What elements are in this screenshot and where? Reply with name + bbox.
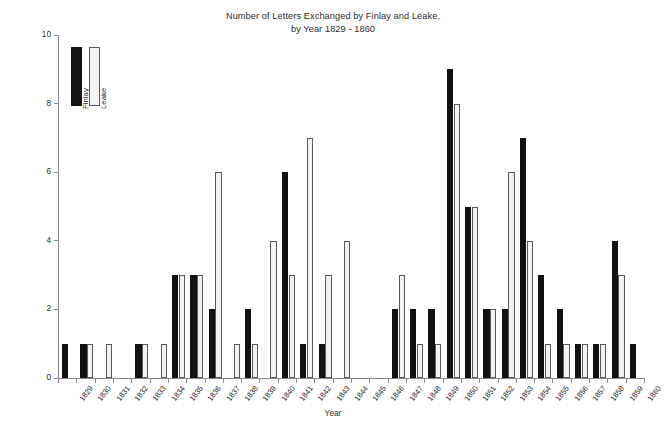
x-tick-label-1836: 1836 xyxy=(206,384,224,403)
bar-leake-1847 xyxy=(399,275,405,378)
x-tick-label-1856: 1856 xyxy=(572,384,590,403)
x-tick-label-1834: 1834 xyxy=(169,384,187,403)
x-tick-mark xyxy=(589,378,590,383)
bar-finlay-1855 xyxy=(538,275,544,378)
bar-finlay-1842 xyxy=(300,344,306,378)
bar-leake-1850 xyxy=(454,104,460,378)
x-tick-label-1833: 1833 xyxy=(151,384,169,403)
x-tick-label-1835: 1835 xyxy=(188,384,206,403)
bar-finlay-1849 xyxy=(428,309,434,378)
x-tick-mark xyxy=(131,378,132,383)
bar-finlay-1850 xyxy=(447,69,453,378)
bar-leake-1848 xyxy=(417,344,423,378)
x-tick-mark xyxy=(351,378,352,383)
x-tick-label-1849: 1849 xyxy=(444,384,462,403)
x-tick-mark xyxy=(388,378,389,383)
x-tick-label-1844: 1844 xyxy=(352,384,370,403)
chart-title-line-2: by Year 1829 - 1860 xyxy=(0,23,666,36)
x-tick-mark xyxy=(76,378,77,383)
bar-finlay-1833 xyxy=(135,344,141,378)
bar-finlay-1860 xyxy=(630,344,636,378)
x-tick-label-1841: 1841 xyxy=(297,384,315,403)
x-tick-mark xyxy=(626,378,627,383)
x-tick-mark xyxy=(278,378,279,383)
x-tick-mark xyxy=(259,378,260,383)
bar-finlay-1830 xyxy=(80,344,86,378)
x-tick-label-1857: 1857 xyxy=(590,384,608,403)
x-tick-label-1839: 1839 xyxy=(261,384,279,403)
x-tick-label-1840: 1840 xyxy=(279,384,297,403)
x-tick-label-1832: 1832 xyxy=(133,384,151,403)
bar-leake-1840 xyxy=(270,241,276,378)
x-tick-label-1847: 1847 xyxy=(407,384,425,403)
x-tick-label-1854: 1854 xyxy=(535,384,553,403)
x-tick-label-1851: 1851 xyxy=(481,384,499,403)
x-tick-label-1830: 1830 xyxy=(96,384,114,403)
letters-bar-chart: Number of Letters Exchanged by Finlay an… xyxy=(0,0,666,435)
bar-leake-1831 xyxy=(106,344,112,378)
bar-finlay-1839 xyxy=(245,309,251,378)
bar-leake-1852 xyxy=(490,309,496,378)
x-tick-mark xyxy=(241,378,242,383)
bar-leake-1857 xyxy=(582,344,588,378)
bar-finlay-1857 xyxy=(575,344,581,378)
x-tick-label-1831: 1831 xyxy=(114,384,132,403)
bar-finlay-1836 xyxy=(190,275,196,378)
y-tick-label: 4 xyxy=(46,235,51,245)
chart-title: Number of Letters Exchanged by Finlay an… xyxy=(0,10,666,35)
bar-leake-1837 xyxy=(215,172,221,378)
bar-finlay-1843 xyxy=(319,344,325,378)
x-tick-label-1829: 1829 xyxy=(78,384,96,403)
x-tick-mark xyxy=(168,378,169,383)
x-tick-mark xyxy=(296,378,297,383)
bar-finlay-1853 xyxy=(502,309,508,378)
x-tick-mark xyxy=(205,378,206,383)
bar-finlay-1835 xyxy=(172,275,178,378)
bar-leake-1834 xyxy=(161,344,167,378)
bar-leake-1839 xyxy=(252,344,258,378)
bar-leake-1844 xyxy=(344,241,350,378)
legend-label-leake: Leake xyxy=(99,88,108,109)
y-tick-label: 10 xyxy=(42,29,51,39)
x-tick-label-1846: 1846 xyxy=(389,384,407,403)
bar-finlay-1859 xyxy=(612,241,618,378)
bar-leake-1841 xyxy=(289,275,295,378)
x-tick-label-1850: 1850 xyxy=(462,384,480,403)
bar-leake-1843 xyxy=(325,275,331,378)
x-tick-label-1852: 1852 xyxy=(499,384,517,403)
x-tick-mark xyxy=(498,378,499,383)
x-tick-label-1858: 1858 xyxy=(609,384,627,403)
x-tick-mark xyxy=(552,378,553,383)
x-tick-mark xyxy=(333,378,334,383)
bar-leake-1838 xyxy=(234,344,240,378)
x-tick-mark xyxy=(186,378,187,383)
x-tick-mark xyxy=(644,378,645,383)
x-tick-label-1860: 1860 xyxy=(645,384,663,403)
bar-finlay-1847 xyxy=(392,309,398,378)
x-tick-label-1853: 1853 xyxy=(517,384,535,403)
bar-finlay-1854 xyxy=(520,138,526,378)
bar-leake-1833 xyxy=(142,344,148,378)
y-tick-label: 2 xyxy=(46,303,51,313)
bar-leake-1854 xyxy=(527,241,533,378)
x-tick-mark xyxy=(95,378,96,383)
x-tick-mark xyxy=(369,378,370,383)
bar-finlay-1848 xyxy=(410,309,416,378)
x-tick-label-1842: 1842 xyxy=(316,384,334,403)
x-tick-mark xyxy=(58,378,59,383)
bar-leake-1836 xyxy=(197,275,203,378)
x-tick-label-1859: 1859 xyxy=(627,384,645,403)
x-tick-label-1837: 1837 xyxy=(224,384,242,403)
x-tick-label-1848: 1848 xyxy=(426,384,444,403)
bar-leake-1858 xyxy=(600,344,606,378)
x-axis-title: Year xyxy=(0,408,666,418)
bar-leake-1842 xyxy=(307,138,313,378)
bar-leake-1835 xyxy=(179,275,185,378)
x-tick-label-1843: 1843 xyxy=(334,384,352,403)
bar-leake-1849 xyxy=(435,344,441,378)
x-tick-mark xyxy=(443,378,444,383)
bars-layer xyxy=(58,35,644,378)
x-tick-mark xyxy=(223,378,224,383)
bar-finlay-1856 xyxy=(557,309,563,378)
bar-leake-1851 xyxy=(472,207,478,379)
